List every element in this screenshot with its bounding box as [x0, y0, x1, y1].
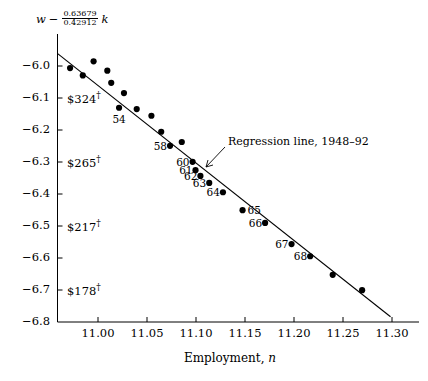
wage-label-324: $324† [67, 91, 101, 105]
data-point-68 [307, 253, 313, 259]
y-tick-label: −6.2 [4, 124, 55, 136]
regression-line-group [57, 53, 390, 316]
data-point [80, 72, 86, 78]
x-axis-title-var: n [268, 351, 276, 365]
annotation-pointer-group [206, 147, 225, 167]
scatter-plot-figure: w − 0.63679 0.42912 k Employment, n −6.0… [0, 0, 428, 381]
data-points-group [67, 58, 365, 293]
data-point-64 [220, 189, 226, 195]
dagger-icon: † [96, 282, 101, 292]
data-point [158, 129, 164, 135]
y-tick-label: −6.6 [4, 252, 55, 264]
dagger-icon: † [96, 218, 101, 228]
dagger-icon: † [96, 90, 101, 100]
y-axis-label-w: w [36, 12, 46, 26]
annotation-pointer [206, 147, 225, 167]
data-point-label-67: 67 [267, 239, 289, 250]
y-axis-label-minus: − [49, 12, 59, 26]
data-point-label-65: 65 [248, 205, 270, 216]
data-point [121, 90, 127, 96]
wage-label-265: $265† [67, 155, 101, 169]
wage-label-178: $178† [67, 283, 101, 297]
data-point [134, 106, 140, 112]
y-tick-label: −6.7 [4, 284, 55, 296]
y-axis-label-k: k [102, 12, 109, 26]
data-point [330, 272, 336, 278]
x-axis-title: Employment, n [150, 352, 310, 364]
data-point [148, 113, 154, 119]
data-point-label-54: 54 [108, 114, 130, 125]
data-point [359, 287, 365, 293]
wage-label-amount: $178 [67, 284, 96, 298]
data-point [67, 65, 73, 71]
data-point-54 [116, 105, 122, 111]
data-point-label-66: 66 [240, 218, 262, 229]
y-tick-label: −6.0 [4, 60, 55, 72]
wage-label-amount: $265 [67, 156, 96, 170]
y-axis-label: w − 0.63679 0.42912 k [36, 10, 109, 28]
data-point-67 [288, 241, 294, 247]
data-point [104, 68, 110, 74]
y-axis-label-denominator: 0.42912 [62, 19, 97, 27]
y-tick-label: −6.4 [4, 188, 55, 200]
data-point-label-64: 64 [198, 187, 220, 198]
y-tick-label: −6.5 [4, 220, 55, 232]
data-point-label-68: 68 [285, 251, 307, 262]
y-tick-label: −6.1 [4, 92, 55, 104]
axes-group [58, 34, 420, 322]
wage-label-amount: $324 [67, 92, 96, 106]
y-axis-label-fraction: 0.63679 0.42912 [62, 10, 97, 28]
data-point-63 [206, 180, 212, 186]
data-point [108, 80, 114, 86]
data-point-label-58: 58 [145, 141, 167, 152]
regression-line [57, 53, 390, 316]
wage-label-amount: $217 [67, 220, 96, 234]
y-tick-label: −6.3 [4, 156, 55, 168]
data-point-58 [167, 143, 173, 149]
data-point-66 [262, 220, 268, 226]
dagger-icon: † [96, 154, 101, 164]
data-point [90, 58, 96, 64]
y-tick-label: −6.8 [4, 316, 55, 328]
x-tick-label: 11.30 [362, 328, 422, 340]
x-axis-title-text: Employment, [184, 351, 265, 365]
data-point [179, 139, 185, 145]
wage-label-217: $217† [67, 219, 101, 233]
data-point-65 [239, 207, 245, 213]
regression-line-annotation: Regression line, 1948–92 [228, 136, 369, 147]
